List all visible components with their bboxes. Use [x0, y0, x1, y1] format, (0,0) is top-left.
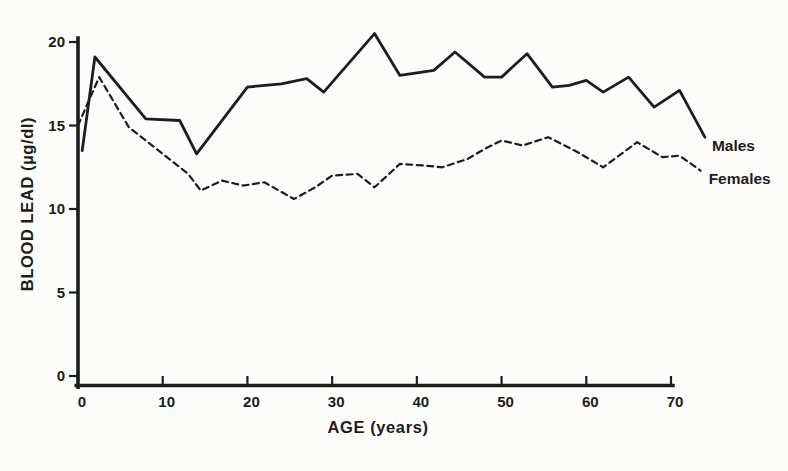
y-tick-label-5: 5: [57, 284, 65, 301]
y-tick-label-0: 0: [57, 367, 65, 384]
x-axis-title: AGE (years): [327, 418, 428, 436]
x-tick-label-40: 40: [413, 393, 430, 410]
y-tick-label-10: 10: [48, 200, 65, 217]
data-series: [78, 34, 705, 199]
males-line: [82, 34, 705, 154]
x-tick-label-10: 10: [158, 393, 175, 410]
axes: [76, 38, 673, 387]
x-tick-label-0: 0: [78, 393, 86, 410]
y-tick-label-15: 15: [48, 117, 65, 134]
x-tick-label-30: 30: [328, 393, 345, 410]
x-tick-label-50: 50: [497, 393, 514, 410]
blood-lead-age-figure: 01020304050607005101520 BLOOD LEAD (µg/d…: [0, 0, 788, 471]
x-tick-label-70: 70: [667, 393, 684, 410]
females-series-label: Females: [709, 170, 771, 187]
males-series-label: Males: [712, 137, 755, 154]
blood-lead-line-chart: 01020304050607005101520 BLOOD LEAD (µg/d…: [0, 0, 788, 471]
x-tick-label-20: 20: [243, 393, 260, 410]
y-axis-title: BLOOD LEAD (µg/dl): [18, 117, 36, 291]
x-tick-label-60: 60: [582, 393, 599, 410]
y-tick-label-20: 20: [48, 33, 65, 50]
females-line: [78, 77, 701, 199]
axis-ticks: 01020304050607005101520: [48, 33, 683, 410]
